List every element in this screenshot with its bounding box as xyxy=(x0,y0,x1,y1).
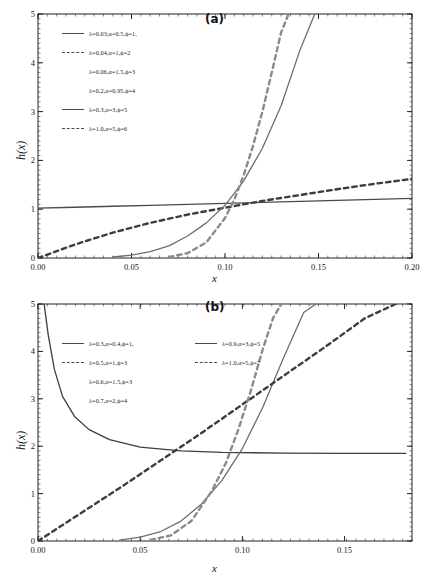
panel-a-ytick-label: 1 xyxy=(22,204,35,214)
panel-b-plot-area xyxy=(0,290,430,582)
panel-a: (a) x h(x) λ=0.03,α=0.5,ϕ=1,λ=0.04,α=1,ϕ… xyxy=(0,0,430,292)
series-line xyxy=(169,14,289,257)
panel-b-xtick-label: 0.05 xyxy=(133,545,148,555)
panel-a-xtick-label: 0.00 xyxy=(31,262,46,272)
legend-label: λ=0.5,α=1,ϕ=3 xyxy=(89,359,127,366)
legend-line-swatch-dashed xyxy=(62,125,84,132)
panel-b-xtick-label: 0.15 xyxy=(337,545,352,555)
panel-a-ytick-label: 2 xyxy=(22,155,35,165)
legend-label: λ=0.3,α=3,ϕ=5 xyxy=(89,106,127,113)
legend-entry: λ=0.6,α=1.5,ϕ=3 xyxy=(62,378,132,385)
legend-line-swatch-none xyxy=(62,378,84,385)
series-line xyxy=(38,198,412,208)
legend-line-swatch-none xyxy=(62,397,84,404)
panel-b-letter: (b) xyxy=(205,300,225,314)
panel-a-ytick-label: 4 xyxy=(22,58,35,68)
legend-entry: λ=0.2,α=0.95,ϕ=4 xyxy=(62,87,135,94)
panel-a-ytick-label: 0 xyxy=(22,253,35,263)
panel-b-ytick-label: 2 xyxy=(22,441,35,451)
panel-b-ytick-label: 3 xyxy=(22,394,35,404)
legend-line-swatch-dashed xyxy=(195,359,217,366)
legend-entry: λ=0.04,α=1,ϕ=2 xyxy=(62,49,130,56)
panel-b-xtick-label: 0.10 xyxy=(235,545,250,555)
figure-two-panel-hazard-plots: (a) x h(x) λ=0.03,α=0.5,ϕ=1,λ=0.04,α=1,ϕ… xyxy=(0,0,430,582)
legend-line-swatch-none xyxy=(62,87,84,94)
legend-entry: λ=0.5,α=1,ϕ=3 xyxy=(62,359,127,366)
panel-b: (b) x h(x) λ=0.3,α=0.4,ϕ=1,λ=0.9,α=3,ϕ=5… xyxy=(0,290,430,582)
panel-a-xtick-label: 0.10 xyxy=(218,262,233,272)
legend-line-swatch-solid xyxy=(62,30,84,37)
panel-b-ytick-label: 0 xyxy=(22,536,35,546)
series-line xyxy=(113,14,315,257)
legend-label: λ=0.9,α=3,ϕ=5 xyxy=(222,340,260,347)
panel-a-xtick-label: 0.20 xyxy=(405,262,420,272)
panel-a-xtick-label: 0.05 xyxy=(124,262,139,272)
panel-a-letter: (a) xyxy=(205,12,224,26)
legend-line-swatch-solid xyxy=(195,340,217,347)
legend-entry: λ=0.7,α=2,ϕ=4 xyxy=(62,397,127,404)
legend-line-swatch-solid xyxy=(62,340,84,347)
legend-line-swatch-none xyxy=(62,68,84,75)
panel-b-ytick-label: 1 xyxy=(22,489,35,499)
legend-label: λ=0.7,α=2,ϕ=4 xyxy=(89,397,127,404)
panel-b-x-axis-title: x xyxy=(212,562,217,574)
legend-line-swatch-dashed xyxy=(62,49,84,56)
legend-label: λ=0.2,α=0.95,ϕ=4 xyxy=(89,87,135,94)
legend-label: λ=0.06,α=1.5,ϕ=3 xyxy=(89,68,135,75)
panel-a-ytick-label: 5 xyxy=(22,9,35,19)
legend-entry: λ=1.0,α=5,ϕ=6 xyxy=(62,125,127,132)
panel-a-xtick-label: 0.15 xyxy=(311,262,326,272)
legend-entry: λ=0.3,α=0.4,ϕ=1, xyxy=(62,340,134,347)
legend-label: λ=0.04,α=1,ϕ=2 xyxy=(89,49,130,56)
legend-line-swatch-dashed xyxy=(62,359,84,366)
legend-entry: λ=0.9,α=3,ϕ=5 xyxy=(195,340,260,347)
panel-a-ytick-label: 3 xyxy=(22,107,35,117)
panel-a-x-axis-title: x xyxy=(212,272,217,284)
legend-label: λ=1.0,α=5,ϕ=7 xyxy=(222,359,260,366)
panel-b-ytick-label: 5 xyxy=(22,299,35,309)
legend-entry: λ=0.3,α=3,ϕ=5 xyxy=(62,106,127,113)
panel-a-plot-area xyxy=(0,0,430,292)
legend-label: λ=0.03,α=0.5,ϕ=1, xyxy=(89,30,137,37)
panel-b-xtick-label: 0.00 xyxy=(31,545,46,555)
legend-entry: λ=0.06,α=1.5,ϕ=3 xyxy=(62,68,135,75)
legend-entry: λ=1.0,α=5,ϕ=7 xyxy=(195,359,260,366)
legend-entry: λ=0.03,α=0.5,ϕ=1, xyxy=(62,30,137,37)
legend-label: λ=0.3,α=0.4,ϕ=1, xyxy=(89,340,134,347)
legend-line-swatch-solid xyxy=(62,106,84,113)
legend-label: λ=1.0,α=5,ϕ=6 xyxy=(89,125,127,132)
legend-label: λ=0.6,α=1.5,ϕ=3 xyxy=(89,378,132,385)
panel-b-ytick-label: 4 xyxy=(22,346,35,356)
